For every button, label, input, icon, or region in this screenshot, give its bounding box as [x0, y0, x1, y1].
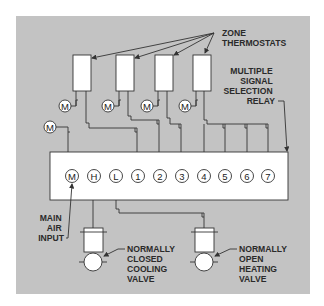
svg-text:M: M	[143, 101, 151, 112]
relay-port-m: M	[66, 170, 79, 183]
thermostat-1	[73, 55, 91, 91]
svg-text:M: M	[68, 171, 76, 182]
svg-text:1: 1	[135, 171, 140, 182]
svg-text:5: 5	[222, 171, 227, 182]
thermostat-3	[155, 55, 173, 91]
svg-text:M: M	[181, 101, 189, 112]
relay-port-l: L	[110, 170, 123, 183]
svg-text:6: 6	[244, 171, 249, 182]
hvac-control-diagram: ZONE THERMOSTATS M M M M M	[0, 0, 324, 306]
relay-port-7: 7	[262, 170, 275, 183]
relay-port-1: 1	[132, 170, 145, 183]
svg-text:2: 2	[157, 171, 162, 182]
relay-port-4: 4	[198, 170, 211, 183]
relay-port-6: 6	[241, 170, 254, 183]
svg-text:M: M	[61, 101, 69, 112]
thermostat-2	[116, 55, 134, 91]
svg-text:7: 7	[265, 171, 270, 182]
svg-text:4: 4	[201, 171, 206, 182]
thermostat-4	[193, 55, 211, 91]
relay-port-2: 2	[154, 170, 167, 183]
relay-port-3: 3	[176, 170, 189, 183]
relay-port-h: H	[88, 170, 101, 183]
svg-text:3: 3	[179, 171, 184, 182]
svg-text:M: M	[104, 101, 112, 112]
svg-text:L: L	[113, 171, 118, 182]
relay-port-5: 5	[219, 170, 232, 183]
svg-text:H: H	[91, 171, 98, 182]
svg-text:M: M	[46, 122, 54, 133]
